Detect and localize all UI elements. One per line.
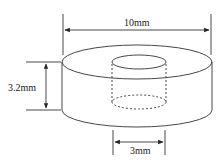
outer-bottom-arc — [62, 110, 212, 127]
outer-top-ellipse — [62, 45, 212, 79]
height-label: 3.2mm — [8, 83, 36, 93]
hole-bottom-hidden-ellipse — [112, 95, 166, 109]
outer-diameter-label: 10mm — [124, 18, 150, 28]
hole-diameter-label: 3mm — [130, 146, 151, 156]
hole-top-ellipse — [112, 55, 166, 69]
diagram-canvas: 10mm 3.2mm 3mm — [0, 0, 223, 165]
